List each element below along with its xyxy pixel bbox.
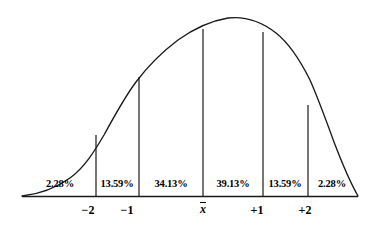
region-label-39-13: 39.13% [217, 178, 250, 189]
axis-tick-label-plus-1: +1 [251, 203, 264, 218]
region-label-34-13: 34.13% [155, 178, 188, 189]
normal-distribution-figure: 2.28% 13.59% 34.13% 39.13% 13.59% 2.28% … [0, 0, 372, 238]
region-label-2-28-right: 2.28% [318, 178, 346, 189]
region-label-13-59-left: 13.59% [101, 178, 134, 189]
axis-tick-label-minus-2: −2 [82, 203, 95, 218]
bell-curve-plot [0, 0, 372, 238]
region-label-13-59-right: 13.59% [269, 178, 302, 189]
x-bar-symbol: x [200, 202, 206, 216]
axis-tick-label-minus-1: −1 [121, 203, 134, 218]
axis-tick-label-mean: x [200, 202, 206, 217]
axis-tick-label-plus-2: +2 [299, 203, 312, 218]
region-label-2-28-left: 2.28% [46, 178, 74, 189]
